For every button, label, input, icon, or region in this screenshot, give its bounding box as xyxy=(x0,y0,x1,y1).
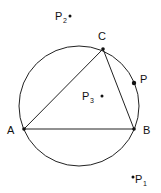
label-c: C xyxy=(98,30,106,42)
label-p: P xyxy=(140,73,147,85)
label-b: B xyxy=(143,124,150,136)
label-p3: P 3 xyxy=(82,90,94,104)
svg-text:2: 2 xyxy=(63,17,67,24)
circumcircle xyxy=(19,46,139,166)
point-p xyxy=(132,81,136,85)
svg-text:P: P xyxy=(135,173,142,185)
point-b xyxy=(132,127,136,131)
point-c xyxy=(101,47,105,51)
svg-text:P: P xyxy=(82,90,89,102)
point-p3 xyxy=(101,95,104,98)
label-p1: P 1 xyxy=(135,173,147,187)
svg-text:P: P xyxy=(55,10,62,22)
triangle-abc xyxy=(24,49,134,129)
svg-text:1: 1 xyxy=(143,180,147,187)
point-a xyxy=(22,127,26,131)
label-p2: P 2 xyxy=(55,10,67,24)
label-a: A xyxy=(7,124,15,136)
geometry-diagram: A B C P P 1 P 2 P 3 xyxy=(0,0,161,193)
svg-text:3: 3 xyxy=(90,97,94,104)
point-p2 xyxy=(69,15,72,18)
